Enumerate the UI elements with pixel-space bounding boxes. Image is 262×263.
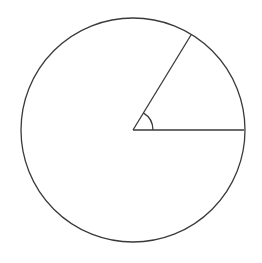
inclined-radius bbox=[133, 35, 191, 130]
diagram-canvas bbox=[0, 0, 262, 263]
angle-arc-marker bbox=[143, 113, 153, 130]
circle-diagram bbox=[0, 0, 262, 263]
